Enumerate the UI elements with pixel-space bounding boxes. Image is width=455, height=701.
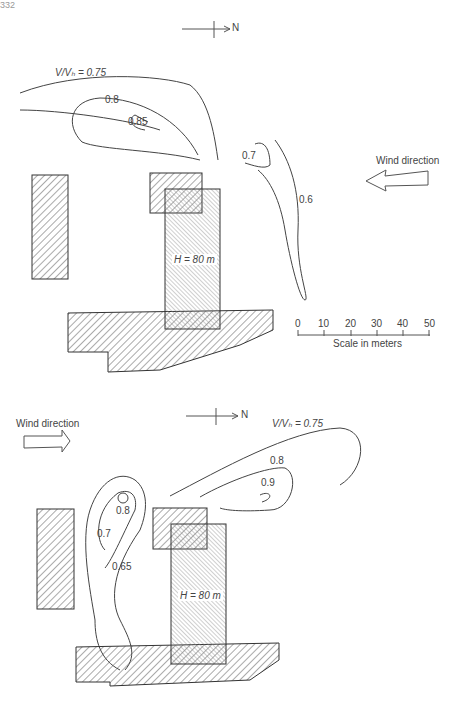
scale-tick-30: 30: [371, 318, 382, 329]
bottom-contour-label-09: 0.9: [261, 477, 275, 488]
top-contour-label-07: 0.7: [242, 150, 256, 161]
bottom-wind-arrow: [24, 430, 70, 452]
top-wind-label: Wind direction: [376, 155, 439, 166]
bottom-building-height-label: H = 80 m: [178, 590, 223, 601]
scale-tick-50: 50: [424, 318, 435, 329]
top-building-height-label: H = 80 m: [172, 254, 217, 265]
top-north-arrow: [182, 21, 230, 38]
bottom-north-label: N: [241, 409, 248, 420]
bottom-contour-label-075: V/Vₕ = 0.75: [272, 418, 323, 429]
bottom-contour-label-07: 0.7: [97, 528, 111, 539]
scale-tick-40: 40: [397, 318, 408, 329]
scale-tick-20: 20: [345, 318, 356, 329]
top-scale-bar: [298, 330, 430, 336]
scale-caption: Scale in meters: [333, 338, 402, 349]
top-contour-label-075: V/Vₕ = 0.75: [55, 67, 106, 78]
diagram-canvas: [0, 0, 455, 701]
top-buildings: [32, 173, 273, 372]
bottom-contour-label-08a: 0.8: [270, 455, 284, 466]
scale-tick-0: 0: [295, 318, 301, 329]
top-wind-arrow: [366, 170, 428, 191]
bottom-contour-label-065: 0.65: [112, 561, 131, 572]
bottom-wind-label: Wind direction: [16, 418, 79, 429]
top-contour-label-08: 0.8: [105, 94, 119, 105]
scale-tick-10: 10: [318, 318, 329, 329]
top-contour-label-085: 0.85: [128, 116, 147, 127]
top-north-label: N: [232, 22, 239, 33]
bottom-contour-label-08b: 0.8: [116, 505, 130, 516]
bottom-north-arrow: [186, 408, 238, 425]
top-contour-label-06: 0.6: [299, 194, 313, 205]
bottom-buildings: [37, 508, 279, 686]
